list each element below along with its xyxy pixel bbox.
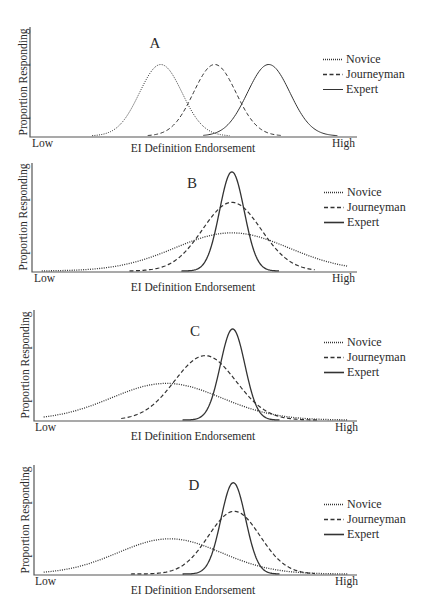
curve-novice xyxy=(44,383,348,419)
legend-label-journeyman: Journeyman xyxy=(347,512,406,526)
legend-label-journeyman: Journeyman xyxy=(346,67,405,81)
y-axis-label: Proportion Responding xyxy=(19,311,32,418)
panel-label: A xyxy=(150,35,161,51)
panel-c: CLowHighEI Definition EndorsementProport… xyxy=(19,310,406,442)
panel-label: C xyxy=(190,323,200,339)
figure-four-panel-distribution-chart: ALowHighEI Definition EndorsementProport… xyxy=(0,0,427,612)
legend-label-journeyman: Journeyman xyxy=(347,350,406,364)
legend: NoviceJourneymanExpert xyxy=(324,185,406,229)
y-axis-label: Proportion Responding xyxy=(19,466,32,573)
curve-novice xyxy=(92,65,229,136)
curve-expert xyxy=(203,65,337,136)
curve-journeyman xyxy=(130,202,315,271)
curve-journeyman xyxy=(131,511,315,574)
legend: NoviceJourneymanExpert xyxy=(323,52,405,96)
x-axis-label: EI Definition Endorsement xyxy=(131,142,256,154)
curve-novice xyxy=(44,539,348,574)
y-axis-label: Proportion Responding xyxy=(17,163,30,270)
legend-label-novice: Novice xyxy=(346,52,381,66)
legend-label-novice: Novice xyxy=(347,497,382,511)
legend-label-expert: Expert xyxy=(346,82,379,96)
panel-b: BLowHighEI Definition EndorsementProport… xyxy=(17,163,406,293)
curve-journeyman xyxy=(148,65,282,136)
panel-d: DLowHighEI Definition EndorsementProport… xyxy=(19,465,406,596)
panel-label: D xyxy=(189,477,200,493)
legend-label-expert: Expert xyxy=(347,215,380,229)
x-tick-low: Low xyxy=(35,421,57,433)
legend-label-expert: Expert xyxy=(347,527,380,541)
x-axis-label: EI Definition Endorsement xyxy=(131,281,256,293)
x-tick-high: High xyxy=(332,272,355,285)
legend: NoviceJourneymanExpert xyxy=(324,335,406,379)
y-axis-label: Proportion Responding xyxy=(17,28,30,135)
legend: NoviceJourneymanExpert xyxy=(324,497,406,541)
legend-label-novice: Novice xyxy=(347,335,382,349)
panel-a: ALowHighEI Definition EndorsementProport… xyxy=(17,27,405,154)
panel-label: B xyxy=(187,175,197,191)
legend-label-novice: Novice xyxy=(347,185,382,199)
x-tick-high: High xyxy=(335,421,358,434)
x-tick-high: High xyxy=(335,575,358,588)
x-axis-label: EI Definition Endorsement xyxy=(131,430,256,442)
x-axis-label: EI Definition Endorsement xyxy=(131,584,256,596)
curve-expert xyxy=(183,329,280,420)
legend-label-journeyman: Journeyman xyxy=(347,200,406,214)
axis-lines xyxy=(30,27,357,137)
curve-novice xyxy=(42,233,348,271)
curve-expert xyxy=(183,483,280,574)
x-tick-high: High xyxy=(332,137,355,150)
x-tick-low: Low xyxy=(32,137,54,149)
legend-label-expert: Expert xyxy=(347,365,380,379)
x-tick-low: Low xyxy=(35,575,57,587)
x-tick-low: Low xyxy=(34,272,56,284)
